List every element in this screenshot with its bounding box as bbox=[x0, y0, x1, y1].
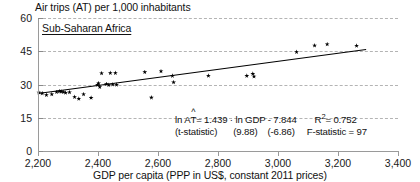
equation-body: = 1.439 · ln GDP - 7.844 bbox=[196, 114, 296, 125]
scatter-point bbox=[108, 70, 113, 75]
scatter-point bbox=[81, 92, 86, 97]
chart-figure: Air trips (AT) per 1,000 inhabitants Sub… bbox=[0, 0, 420, 182]
f-statistic-value: F-statistic = 97 bbox=[307, 126, 367, 137]
y-tick-mark bbox=[38, 51, 43, 52]
y-tick-label: 30 bbox=[4, 79, 32, 91]
scatter-point bbox=[44, 92, 49, 97]
x-tick-mark bbox=[278, 151, 279, 156]
x-tick-mark bbox=[218, 151, 219, 156]
scatter-point bbox=[72, 94, 77, 99]
scatter-point bbox=[244, 73, 249, 78]
tstat-slope-value: (9.88) bbox=[233, 126, 257, 137]
scatter-point bbox=[67, 90, 72, 95]
scatter-point bbox=[312, 43, 317, 48]
x-tick-label: 2,800 bbox=[205, 157, 231, 169]
tstat-label: (t-statistic) bbox=[175, 126, 217, 137]
x-tick-mark bbox=[158, 151, 159, 156]
x-tick-label: 2,600 bbox=[145, 157, 171, 169]
x-tick-mark bbox=[398, 151, 399, 156]
x-tick-mark bbox=[338, 151, 339, 156]
regression-trendline bbox=[38, 49, 366, 94]
scatter-point bbox=[113, 70, 118, 75]
y-tick-mark bbox=[38, 18, 43, 19]
equation-hat-variable: ^T bbox=[190, 114, 196, 125]
x-tick-mark bbox=[98, 151, 99, 156]
scatter-point bbox=[206, 73, 211, 78]
scatter-point bbox=[142, 70, 147, 75]
hat-accent-icon: ^ bbox=[191, 108, 195, 117]
scatter-point bbox=[99, 71, 104, 76]
tstat-intercept-value: (-6.86) bbox=[267, 126, 294, 137]
scatter-point bbox=[149, 95, 154, 100]
x-tick-label: 3,400 bbox=[385, 157, 411, 169]
y-tick-label: 45 bbox=[4, 45, 32, 57]
y-tick-mark bbox=[38, 85, 43, 86]
scatter-point bbox=[89, 95, 94, 100]
scatter-point bbox=[354, 43, 359, 48]
scatter-point bbox=[250, 71, 255, 76]
equation-prefix: ln A bbox=[175, 114, 190, 125]
x-tick-label: 2,200 bbox=[25, 157, 51, 169]
x-tick-mark bbox=[38, 151, 39, 156]
y-tick-mark bbox=[38, 118, 43, 119]
regression-equation-line: ln A^T = 1.439 · ln GDP - 7.844R2 = 0.75… bbox=[175, 112, 357, 125]
scatter-point bbox=[76, 96, 81, 101]
scatter-point bbox=[49, 92, 54, 97]
scatter-point bbox=[159, 69, 164, 74]
x-tick-label: 3,200 bbox=[325, 157, 351, 169]
x-tick-label: 3,000 bbox=[265, 157, 291, 169]
y-tick-label: 0 bbox=[4, 145, 32, 157]
x-tick-label: 2,400 bbox=[85, 157, 111, 169]
y-tick-label: 15 bbox=[4, 112, 32, 124]
r-squared-value: = 0.752 bbox=[325, 114, 356, 125]
scatter-point bbox=[325, 42, 330, 47]
x-axis-title: GDP per capita (PPP in US$, constant 201… bbox=[0, 169, 420, 181]
y-tick-label: 60 bbox=[4, 12, 32, 24]
regression-statistics-line: (t-statistic)(9.88)(-6.86)F-statistic = … bbox=[175, 126, 367, 137]
chart-title: Air trips (AT) per 1,000 inhabitants bbox=[35, 1, 191, 13]
gridline bbox=[38, 18, 398, 19]
